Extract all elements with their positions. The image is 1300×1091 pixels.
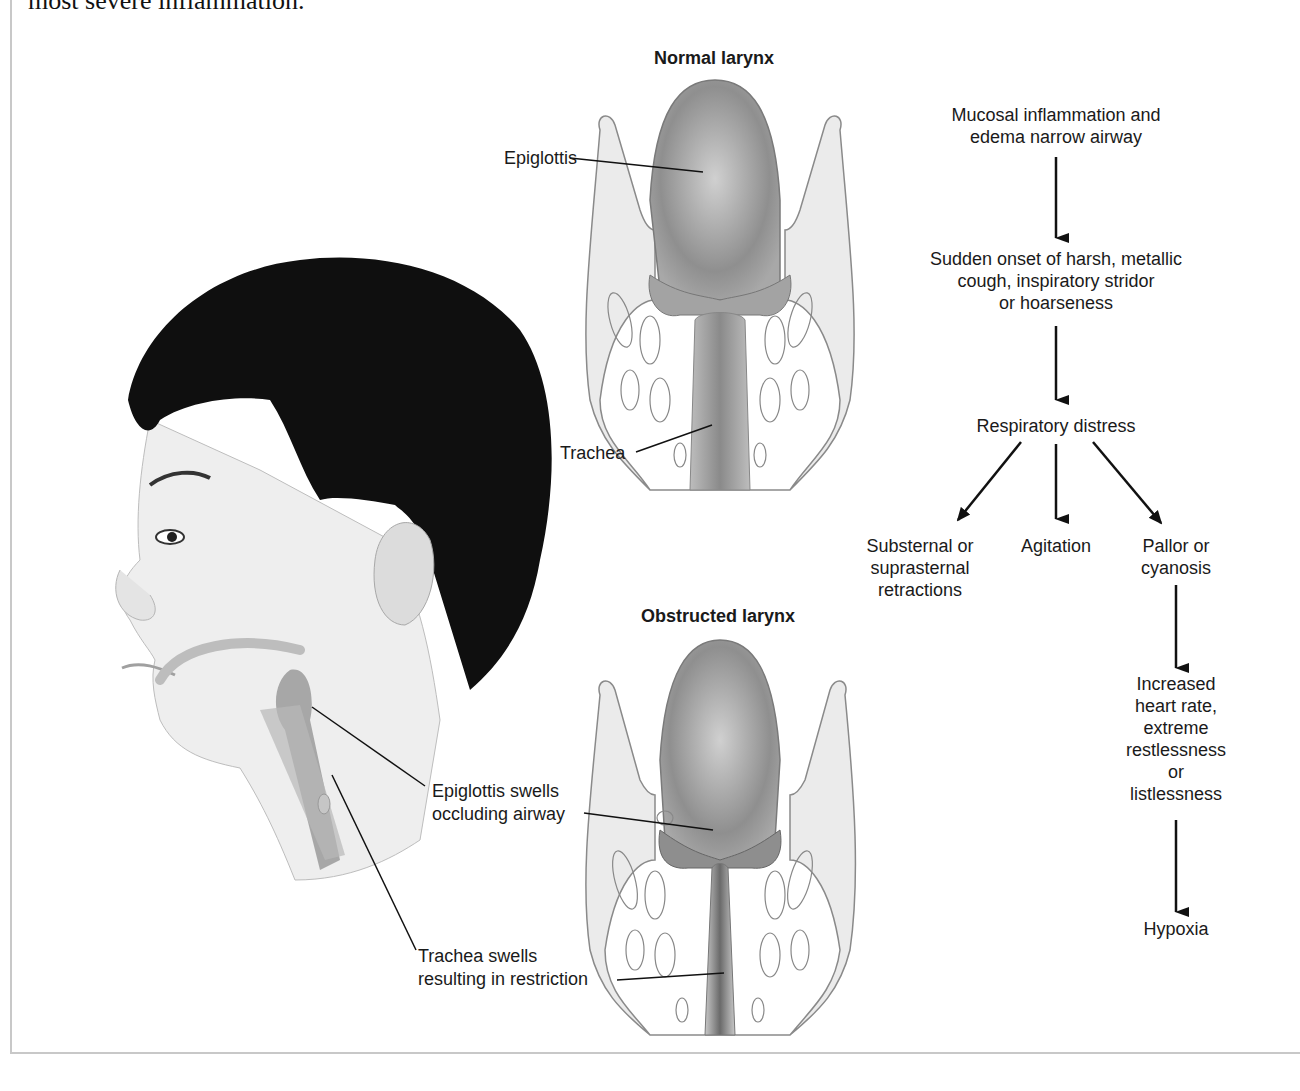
normal-larynx-illustration — [570, 80, 854, 490]
flow-node-pallor: Pallor or cyanosis — [1116, 535, 1236, 579]
flow-node-retractions: Substernal or suprasternal retractions — [846, 535, 994, 601]
flow-node-agitation: Agitation — [1006, 535, 1106, 557]
obstructed-larynx-title: Obstructed larynx — [598, 605, 838, 627]
flow-node-heart-rate: Increased heart rate, extreme restlessne… — [1106, 673, 1246, 805]
flow-node-cough: Sudden onset of harsh, metallic cough, i… — [896, 248, 1216, 314]
flow-node-hypoxia: Hypoxia — [1116, 918, 1236, 940]
label-trachea-swells-line1: Trachea swells — [418, 945, 537, 967]
flow-node-inflammation: Mucosal inflammation and edema narrow ai… — [906, 104, 1206, 148]
normal-larynx-title: Normal larynx — [614, 47, 814, 69]
label-epiglottis-swells-line2: occluding airway — [432, 803, 565, 825]
label-trachea-swells-line2: resulting in restriction — [418, 968, 588, 990]
label-epiglottis-swells-line1: Epiglottis swells — [432, 780, 559, 802]
label-trachea: Trachea — [560, 442, 625, 464]
label-epiglottis: Epiglottis — [504, 147, 577, 169]
flow-node-respiratory-distress: Respiratory distress — [936, 415, 1176, 437]
